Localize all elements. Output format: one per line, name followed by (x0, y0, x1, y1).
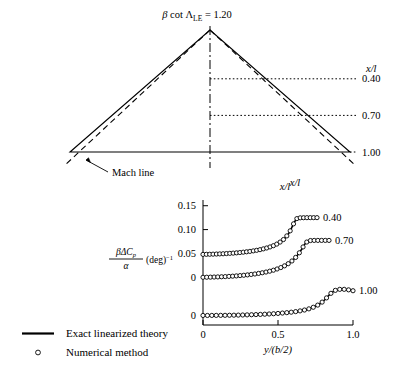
mach-line-arrowhead (86, 158, 91, 163)
data-marker-1.00 (338, 287, 342, 291)
data-marker-1.00 (280, 311, 284, 315)
figure-canvas: 0.400.701.00x/lβ cot ΛLE = 1.20Mach line… (0, 0, 394, 374)
curve-label-0.40: 0.40 (323, 212, 341, 223)
station-label-0.70: 0.70 (362, 110, 380, 121)
y-axis-label-numerator: βΔCp (115, 247, 137, 258)
data-marker-1.00 (254, 312, 258, 316)
data-marker-1.00 (346, 288, 350, 292)
mach-line-left (64, 30, 210, 166)
data-marker-1.00 (342, 287, 346, 291)
data-marker-1.00 (320, 300, 324, 304)
data-marker-1.00 (311, 305, 315, 309)
data-marker-1.00 (201, 313, 205, 317)
y-tick-label-1: 0.10 (178, 224, 196, 235)
data-marker-0.70 (286, 262, 290, 266)
data-marker-0.40 (288, 229, 292, 233)
data-marker-1.00 (267, 312, 271, 316)
y-tick-label-4: 0 (191, 310, 196, 321)
data-marker-1.00 (232, 313, 236, 317)
data-marker-1.00 (241, 313, 245, 317)
data-marker-1.00 (258, 312, 262, 316)
legend-label-0: Exact linearized theory (66, 327, 169, 339)
data-marker-1.00 (245, 313, 249, 317)
data-marker-0.40 (285, 234, 289, 238)
data-marker-0.70 (327, 238, 331, 242)
station-label-0.40: 0.40 (362, 73, 380, 84)
data-marker-0.70 (290, 259, 294, 263)
data-marker-1.00 (351, 289, 355, 293)
data-marker-0.40 (281, 237, 285, 241)
data-marker-1.00 (227, 313, 231, 317)
x-tick-label-1: 0.5 (271, 329, 284, 340)
data-marker-1.00 (294, 310, 298, 314)
x-tick-label-0: 0 (200, 329, 205, 340)
station-label-1.00: 1.00 (362, 147, 380, 158)
planform-station-axis-label: x/l (365, 63, 377, 74)
data-marker-0.70 (297, 251, 301, 255)
data-marker-1.00 (271, 312, 275, 316)
figure-title: β cot ΛLE = 1.20 (161, 9, 232, 23)
data-marker-1.00 (276, 311, 280, 315)
legend-label-1: Numerical method (66, 346, 149, 358)
data-marker-1.00 (263, 312, 267, 316)
data-marker-1.00 (333, 288, 337, 292)
y-tick-label-2: 0.05 (178, 248, 196, 259)
y-tick-label-3: 0 (191, 272, 196, 283)
y-axis-label-units: (deg)−1 (146, 254, 173, 267)
data-marker-1.00 (236, 313, 240, 317)
data-marker-1.00 (298, 309, 302, 313)
data-marker-0.40 (315, 216, 319, 220)
data-marker-1.00 (324, 296, 328, 300)
data-marker-1.00 (289, 310, 293, 314)
data-marker-1.00 (214, 313, 218, 317)
data-marker-1.00 (316, 303, 320, 307)
data-marker-1.00 (210, 313, 214, 317)
legend-swatch-circle (36, 350, 41, 355)
data-marker-1.00 (249, 313, 253, 317)
x-tick-label-2: 1.0 (346, 329, 359, 340)
data-marker-1.00 (329, 291, 333, 295)
mach-line-right (210, 30, 356, 166)
planform-bottom-axis-label: x/l (289, 177, 301, 188)
data-marker-1.00 (285, 311, 289, 315)
data-marker-1.00 (205, 313, 209, 317)
y-tick-label-0: 0.15 (178, 200, 196, 211)
y-axis-label-denominator: α (124, 261, 130, 271)
curve-label-0.70: 0.70 (335, 235, 353, 246)
curve-label-1.00: 1.00 (359, 285, 377, 296)
data-marker-0.40 (291, 222, 295, 226)
x-axis-label: y/(b/2) (263, 344, 292, 356)
data-marker-1.00 (302, 308, 306, 312)
data-marker-0.70 (294, 255, 298, 259)
data-marker-1.00 (223, 313, 227, 317)
data-marker-1.00 (219, 313, 223, 317)
data-marker-0.70 (301, 245, 305, 249)
mach-line-label: Mach line (112, 167, 155, 178)
data-marker-1.00 (307, 307, 311, 311)
plot-station-axis-label: x/l (279, 181, 291, 192)
